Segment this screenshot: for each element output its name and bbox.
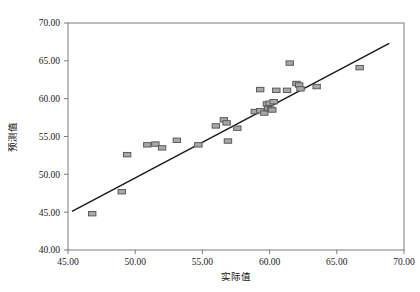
x-tick-label: 60.00 (259, 257, 281, 267)
x-tick-label: 55.00 (192, 257, 214, 267)
y-tick-label: 40.00 (39, 245, 61, 255)
y-axis-title: 预测值 (7, 122, 18, 152)
data-point-marker (273, 88, 280, 92)
data-point-marker (234, 126, 241, 130)
y-tick-label: 50.00 (39, 170, 61, 180)
x-axis-title: 实际值 (221, 271, 251, 282)
data-point-marker (195, 143, 202, 147)
data-point-marker (269, 108, 276, 112)
y-tick-label: 55.00 (39, 132, 61, 142)
data-point-marker (224, 139, 231, 143)
data-point-marker (270, 99, 277, 103)
y-tick-label: 70.00 (39, 18, 61, 28)
data-point-marker (173, 138, 180, 142)
x-tick-label: 65.00 (326, 257, 348, 267)
data-point-marker (158, 146, 165, 150)
data-point-marker (118, 190, 125, 194)
y-tick-label: 65.00 (39, 56, 61, 66)
data-point-marker (123, 152, 130, 156)
x-tick-label: 50.00 (125, 257, 147, 267)
y-tick-label: 60.00 (39, 94, 61, 104)
x-tick-label: 45.00 (57, 257, 79, 267)
data-point-marker (297, 87, 304, 91)
data-point-marker (313, 84, 320, 88)
plot-canvas: 45.0050.0055.0060.0065.0070.00 40.0045.0… (0, 0, 420, 292)
figure-background (0, 0, 420, 292)
data-point-marker (256, 87, 263, 91)
data-point-marker (286, 61, 293, 65)
data-point-marker (88, 211, 95, 215)
data-point-marker (223, 121, 230, 125)
data-point-marker (356, 65, 363, 69)
data-point-marker (144, 143, 151, 147)
x-tick-label: 70.00 (393, 257, 415, 267)
scatter-plot-figure: 45.0050.0055.0060.0065.0070.00 40.0045.0… (0, 0, 420, 292)
y-tick-label: 45.00 (39, 208, 61, 218)
data-point-marker (283, 88, 290, 92)
data-point-marker (212, 124, 219, 128)
